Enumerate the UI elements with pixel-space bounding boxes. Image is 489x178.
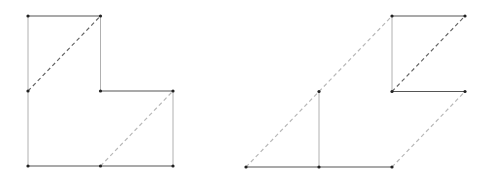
- vertex-point: [26, 89, 29, 92]
- vertex-point: [244, 165, 247, 168]
- vertex-point: [171, 164, 174, 167]
- dashed-segment: [392, 92, 465, 168]
- diagram-canvas: [0, 0, 489, 178]
- vertex-point: [317, 165, 320, 168]
- vertex-point: [99, 89, 102, 92]
- vertex-point: [463, 90, 466, 93]
- vertex-point: [99, 14, 102, 17]
- left-figure: [26, 14, 174, 167]
- dashed-segment: [392, 16, 465, 92]
- vertex-point: [390, 14, 393, 17]
- vertex-point: [390, 165, 393, 168]
- dashed-segment: [246, 92, 319, 168]
- vertex-point: [171, 89, 174, 92]
- vertex-point: [26, 164, 29, 167]
- right-figure: [244, 14, 466, 168]
- vertex-point: [26, 14, 29, 17]
- vertex-point: [317, 90, 320, 93]
- vertex-point: [99, 164, 102, 167]
- vertex-point: [463, 14, 466, 17]
- dashed-segment: [101, 91, 174, 166]
- dashed-segment: [319, 16, 392, 92]
- vertex-point: [390, 90, 393, 93]
- dashed-segment: [28, 16, 101, 91]
